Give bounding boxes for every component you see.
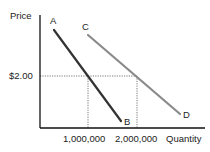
point-a-label: A [50,15,57,26]
x-axis-label: Quantity [166,133,202,144]
y-axis-label: Price [10,10,32,21]
line-ab [54,30,121,121]
q2-tick-label: 2,000,000 [115,133,157,144]
q1-tick-label: 1,000,000 [63,133,105,144]
line-cd [88,35,180,114]
chart: Price $2.00 1,000,000 2,000,000 Quantity… [0,0,210,152]
point-c-label: C [82,21,89,32]
price-tick-label: $2.00 [9,70,33,81]
point-b-label: B [124,116,130,127]
point-d-label: D [183,109,190,120]
